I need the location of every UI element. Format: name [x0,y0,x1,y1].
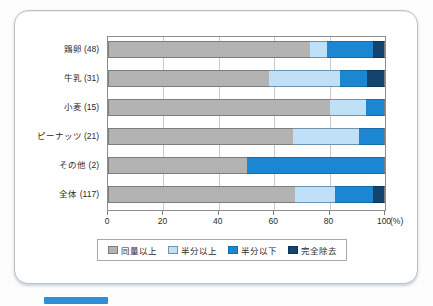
legend-item: 完全除去 [288,244,337,256]
x-tick-label: 20 [158,216,167,226]
screenshot-root: 鶏卵 (48) 牛乳 (31) 小麦 (15) ピーナッツ (21) その他 (… [0,0,433,306]
legend-swatch-icon [168,246,178,254]
bar-segment-a [108,157,247,174]
bar-segment-c [359,128,385,145]
bar-segment-a [108,128,293,145]
y-axis-label: 小麦 (15) [13,102,99,112]
x-tick [273,211,274,215]
bar-segment-b [295,186,335,203]
x-tick [107,211,108,215]
bar-segment-d [373,41,385,58]
legend-label: 同量以上 [121,244,157,256]
legend-label: 半分以下 [241,244,277,256]
x-tick-label: 100 [377,216,391,226]
bar-segment-c [335,186,373,203]
x-tick [329,211,330,215]
legend-item: 半分以下 [228,244,277,256]
x-axis: 0 20 40 60 80 100 [107,211,386,233]
x-tick-label: 40 [213,216,222,226]
chart-card: 鶏卵 (48) 牛乳 (31) 小麦 (15) ピーナッツ (21) その他 (… [14,10,418,284]
y-axis-label: ピーナッツ (21) [13,131,99,141]
bar-row [108,41,385,58]
caption-strip [0,296,433,306]
bar-segment-d [373,186,385,203]
x-tick-label: 0 [105,216,110,226]
plot-area [107,36,386,211]
bar-segment-c [247,157,386,174]
bar-segment-b [269,70,340,87]
bar-segment-b [310,41,327,58]
x-axis-unit-label: (%) [390,216,403,226]
x-tick [384,211,385,215]
bar-segment-c [327,41,373,58]
bar-segment-d [367,70,385,87]
bar-segment-c [340,70,367,87]
x-tick-label: 80 [324,216,333,226]
x-tick [218,211,219,215]
legend-swatch-icon [108,246,118,254]
legend-swatch-icon [288,246,298,254]
bar-segment-b [293,128,359,145]
y-axis-label: その他 (2) [13,160,99,170]
y-axis-labels: 鶏卵 (48) 牛乳 (31) 小麦 (15) ピーナッツ (21) その他 (… [15,36,103,211]
bar-row [108,157,385,174]
x-tick-label: 60 [268,216,277,226]
bar-rows [108,37,385,210]
bar-segment-c [366,99,385,116]
bar-row [108,128,385,145]
bar-segment-a [108,70,269,87]
y-axis-label: 鶏卵 (48) [13,44,99,54]
bar-row [108,70,385,87]
legend-swatch-icon [228,246,238,254]
chart-legend: 同量以上 半分以上 半分以下 完全除去 [97,239,347,261]
caption-badge [44,297,108,304]
legend-item: 同量以上 [108,244,157,256]
bar-segment-a [108,41,310,58]
bar-segment-b [330,99,367,116]
legend-label: 半分以上 [181,244,217,256]
bar-segment-a [108,99,330,116]
y-axis-label: 牛乳 (31) [13,73,99,83]
bar-row [108,186,385,203]
x-tick [162,211,163,215]
y-axis-label: 全体 (117) [13,189,99,199]
stacked-bar-chart: 鶏卵 (48) 牛乳 (31) 小麦 (15) ピーナッツ (21) その他 (… [15,11,419,285]
legend-item: 半分以上 [168,244,217,256]
legend-label: 完全除去 [301,244,337,256]
bar-row [108,99,385,116]
bar-segment-a [108,186,295,203]
